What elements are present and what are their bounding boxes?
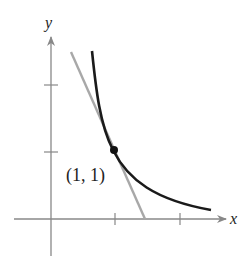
graph: x y (1, 1)	[0, 0, 247, 259]
curve	[92, 51, 211, 210]
y-axis-label: y	[43, 14, 53, 32]
x-axis-label: x	[229, 210, 237, 227]
point-1-1	[110, 146, 118, 154]
point-label: (1, 1)	[66, 165, 105, 186]
